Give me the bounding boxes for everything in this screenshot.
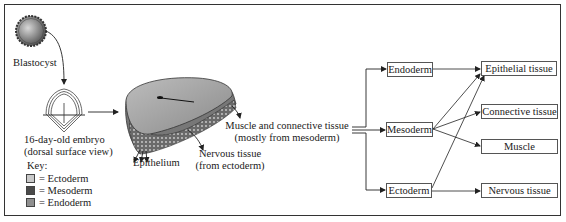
blastocyst-label: Blastocyst bbox=[13, 57, 57, 69]
embryo-section-illustration bbox=[126, 78, 236, 154]
key-item-mesoderm: = Mesoderm bbox=[26, 185, 92, 197]
node-mesoderm: Mesoderm bbox=[386, 122, 433, 137]
embryo-dorsal-icon bbox=[43, 89, 85, 132]
nervous-tissue-label: Nervous tissue bbox=[190, 148, 270, 160]
epithelium-label: Epithelium bbox=[133, 157, 180, 169]
node-endoderm: Endoderm bbox=[387, 62, 433, 77]
flow-edges bbox=[432, 69, 484, 191]
flow-trunk bbox=[352, 69, 386, 190]
embryo-label: 16-day-old embryo bbox=[24, 134, 105, 146]
mesoderm-swatch-icon bbox=[26, 186, 35, 195]
embryo-view-label: (dorsal surface view) bbox=[24, 146, 113, 158]
ectoderm-swatch-icon bbox=[26, 174, 35, 183]
node-muscle: Muscle bbox=[481, 139, 558, 154]
node-epithelial-tissue: Epithelial tissue bbox=[481, 61, 557, 76]
muscle-connective-label: Muscle and connective tissue bbox=[222, 120, 352, 132]
nervous-origin-label: (from ectoderm) bbox=[190, 160, 270, 172]
key-item-endoderm: = Endoderm bbox=[26, 197, 91, 209]
muscle-origin-label: (mostly from mesoderm) bbox=[222, 132, 352, 144]
node-nervous-tissue: Nervous tissue bbox=[481, 183, 558, 198]
key-item-ectoderm: = Ectoderm bbox=[26, 173, 88, 185]
key-title: Key: bbox=[27, 160, 47, 172]
blastocyst-icon bbox=[16, 16, 46, 46]
node-ectoderm: Ectoderm bbox=[386, 183, 432, 198]
endoderm-swatch-icon bbox=[26, 198, 35, 207]
node-connective-tissue: Connective tissue bbox=[481, 104, 558, 119]
